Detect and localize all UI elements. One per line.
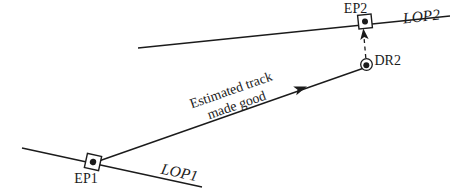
dr2-to-ep2-dashed-line	[364, 36, 366, 58]
ep1-label: EP1	[74, 171, 97, 186]
dashed-arrowhead-icon	[359, 28, 369, 40]
navigation-diagram: EP2 LOP2 DR2 EP1 LOP1 Estimated track ma…	[0, 0, 460, 194]
dr2-symbol-icon	[361, 59, 373, 71]
lop1-label: LOP1	[159, 160, 200, 185]
lop2-label: LOP2	[401, 6, 441, 27]
ep2-symbol-icon	[358, 14, 373, 29]
ep1-symbol-icon	[84, 153, 101, 170]
ep2-label: EP2	[344, 1, 367, 16]
diagram-svg: EP2 LOP2 DR2 EP1 LOP1 Estimated track ma…	[0, 0, 460, 194]
dr2-label: DR2	[375, 53, 401, 68]
